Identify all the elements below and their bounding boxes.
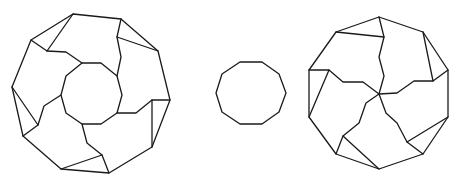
inner-decagon — [61, 63, 122, 124]
cut-path — [336, 94, 379, 154]
triangle-edge — [117, 37, 158, 51]
outer-decagon — [216, 62, 286, 124]
triangle-edge — [47, 14, 73, 51]
cut-path — [117, 19, 121, 76]
triangle-edge — [61, 155, 102, 169]
left-ring-dissection-figure — [12, 14, 170, 173]
triangle-edge — [309, 70, 329, 117]
cut-path — [379, 17, 384, 94]
cut-path — [117, 100, 170, 113]
center-small-decagon-figure — [216, 62, 286, 124]
cut-path — [309, 70, 379, 94]
right-pinwheel-dissection-figure — [309, 17, 448, 169]
cut-path — [379, 94, 423, 154]
cut-path — [379, 70, 448, 94]
triangle-edge — [407, 117, 448, 142]
cut-path — [23, 95, 61, 136]
cut-path — [31, 40, 82, 63]
cut-path — [82, 124, 109, 173]
triangle-edge — [336, 32, 384, 37]
decagon-dissection-diagram — [0, 0, 460, 184]
triangle-edge — [343, 136, 379, 169]
outer-decagon — [12, 14, 170, 173]
